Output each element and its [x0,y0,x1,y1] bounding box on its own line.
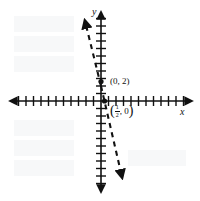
x-axis-label: x [180,107,184,117]
point-label-rest: , 0 [120,106,129,116]
point-label-x-intercept: (12, 0) [110,104,133,118]
close-paren: ) [129,103,134,118]
graph-figure: y x (0, 2) (12, 0) [0,0,200,201]
coordinate-plane-svg [0,0,200,201]
point-label-y-intercept: (0, 2) [110,77,130,86]
plot-points [98,79,107,104]
fraction-denominator: 2 [115,111,120,118]
background-texture [14,16,186,176]
point-marker-y-intercept [98,79,103,84]
fraction-one-half: 12 [115,104,120,118]
y-axis-label: y [92,7,96,17]
point-marker-x-intercept [102,98,107,103]
